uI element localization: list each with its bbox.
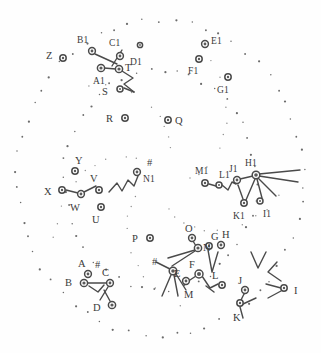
ring-dot (118, 276, 120, 278)
point-core (259, 200, 261, 202)
dotted-rings-layer (14, 18, 306, 338)
point-label: U (92, 215, 100, 226)
ring-dot (164, 71, 166, 73)
ring-dot (200, 83, 202, 85)
ring-dot (14, 171, 16, 173)
ring-dot (236, 244, 238, 246)
point-label: O (185, 224, 193, 235)
point-label: Z (46, 51, 53, 62)
ring-dot (258, 60, 260, 62)
ring-dot (295, 136, 297, 138)
point-core (62, 57, 64, 59)
ring-dot (218, 318, 220, 320)
point-core (185, 280, 188, 283)
point-label: F1 (188, 67, 198, 77)
point-core (124, 117, 126, 119)
ring-dot (227, 254, 229, 256)
ring-dot (74, 131, 76, 133)
speckle-dot (204, 230, 205, 231)
point-core (109, 282, 112, 285)
ring-dot (108, 82, 110, 84)
ring-dot (299, 218, 301, 220)
point-label: X (44, 187, 52, 198)
connector-stroke (268, 262, 281, 281)
point-core (220, 244, 223, 247)
point-label: N (203, 243, 211, 254)
ring-dot (176, 332, 178, 334)
ring-dot (136, 72, 138, 74)
ring-dot (71, 223, 73, 225)
ring-dot (301, 149, 303, 151)
ring-dot (16, 186, 18, 188)
point-core (117, 67, 120, 70)
ring-dot (236, 112, 238, 114)
speckle-dot (168, 136, 169, 137)
ring-dot (50, 278, 52, 280)
ring-dot (99, 321, 101, 323)
point-core (196, 246, 199, 249)
point-core (191, 237, 194, 240)
speckle-dot (194, 226, 195, 227)
point-label: Q (175, 116, 183, 127)
speckle-dot (131, 206, 132, 207)
speckle-dot (75, 181, 76, 182)
ring-dot (290, 118, 292, 120)
speckle-dot (164, 126, 165, 127)
ring-dot (63, 292, 65, 294)
ring-dot (72, 53, 74, 55)
point-label: N1 (143, 175, 155, 185)
ring-dot (93, 262, 95, 264)
ring-dot (62, 157, 64, 159)
connector-stroke (104, 290, 110, 301)
ring-dot (214, 88, 216, 90)
ring-dot (75, 305, 77, 307)
speckle-dot (219, 77, 220, 78)
ring-dot (16, 150, 18, 152)
point-core (149, 237, 151, 239)
ring-dot (20, 202, 22, 204)
ring-dot (284, 249, 286, 251)
connector-stroke (109, 176, 138, 192)
point-label: # (147, 158, 152, 169)
connector-stroke (209, 184, 216, 186)
ring-dot (205, 29, 207, 31)
ring-dot (245, 226, 247, 228)
ring-dot (190, 332, 192, 334)
ring-dot (246, 137, 248, 139)
point-label: V (90, 174, 98, 185)
point-label: J1 (229, 165, 238, 175)
point-label: K1 (233, 212, 245, 222)
point-label: C (102, 268, 109, 279)
connector-stroke (162, 275, 171, 296)
speckle-dot (189, 177, 190, 178)
ring-dot (130, 286, 132, 288)
ring-dot (34, 102, 36, 104)
ring-dot (268, 281, 270, 283)
point-core (119, 55, 122, 58)
speckle-dot (135, 196, 136, 197)
point-label: F (189, 260, 195, 271)
ring-dot (304, 169, 306, 171)
speckle-dot (242, 224, 243, 225)
point-label: G1 (217, 86, 229, 96)
ring-dot (226, 98, 228, 100)
ring-dot (158, 21, 160, 23)
point-core (139, 44, 141, 46)
point-core (198, 58, 200, 60)
ring-dot (63, 177, 65, 179)
speckle-dot (130, 252, 131, 253)
figure-canvas: ZB1C1D1TA1SRQE1F1G1YXWVUN1#M1L1J1H1K1I1P… (0, 0, 321, 353)
connector-stroke (66, 190, 78, 193)
point-core (80, 193, 83, 196)
point-core (61, 189, 63, 191)
speckle-dot (226, 123, 227, 124)
speckle-dot (85, 170, 86, 171)
speckle-dot (88, 85, 89, 86)
point-label: S (102, 87, 108, 98)
speckle-dot (131, 92, 132, 93)
ring-dot (175, 19, 177, 21)
point-core (244, 289, 247, 292)
speckle-dot (174, 216, 175, 217)
connector-stroke (222, 182, 236, 190)
ring-dot (275, 265, 277, 267)
